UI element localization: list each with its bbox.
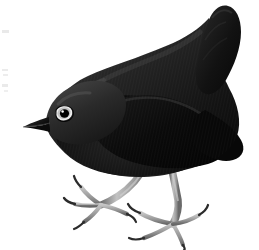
bird-illustration-canvas — [0, 0, 259, 250]
eye-glint — [61, 110, 64, 113]
eye-pupil — [60, 109, 69, 117]
bird-illustration-figure: Dark plumaged perching bird with cocked … — [0, 0, 259, 250]
